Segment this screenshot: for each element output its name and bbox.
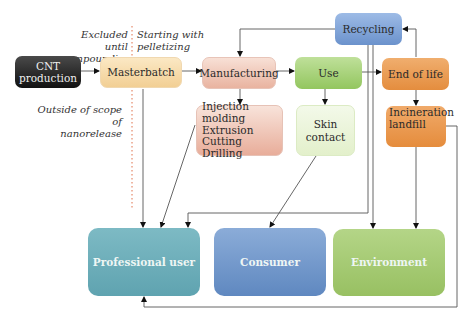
node-manufacturing: Manufacturing (202, 57, 276, 89)
node-end-of-life: End of life (382, 58, 449, 90)
cnt-label-line2: production (19, 72, 77, 84)
process-injection-molding: Injection molding (202, 101, 282, 125)
process-drilling: Drilling (202, 148, 242, 160)
node-processes: Injection molding Extrusion Cutting Dril… (196, 105, 283, 156)
recycling-label: Recycling (342, 23, 394, 35)
node-masterbatch: Masterbatch (100, 57, 182, 88)
environment-label: Environment (351, 256, 427, 268)
note-excluded-line1: Excluded until (62, 29, 128, 53)
node-incineration: Incineration landfill (386, 106, 446, 147)
node-professional-user: Professional user (88, 228, 200, 296)
cnt-label-line1: CNT (36, 60, 60, 72)
note-outside-line2: nanorelease (36, 128, 122, 140)
node-cnt-production: CNT production (15, 56, 81, 88)
node-use: Use (295, 57, 362, 89)
node-recycling: Recycling (335, 13, 402, 45)
note-outside-line1: Outside of scope of (36, 104, 122, 128)
masterbatch-label: Masterbatch (107, 66, 175, 78)
manufacturing-label: Manufacturing (199, 67, 278, 79)
skin-contact-label: Skin contact (297, 118, 354, 142)
incineration-label-line1: Incineration (389, 106, 454, 118)
use-label: Use (318, 67, 338, 79)
node-skin-contact: Skin contact (296, 105, 355, 156)
note-starting-line2: pelletizing (137, 41, 204, 53)
end-of-life-label: End of life (388, 68, 443, 80)
incineration-label-line2: landfill (389, 118, 426, 130)
node-consumer: Consumer (214, 228, 326, 296)
note-starting-line1: Starting with (137, 29, 204, 41)
professional-user-label: Professional user (93, 256, 195, 268)
node-environment: Environment (333, 229, 445, 296)
note-outside: Outside of scope of nanorelease (36, 104, 122, 140)
consumer-label: Consumer (240, 256, 300, 268)
note-starting: Starting with pelletizing (137, 29, 204, 53)
